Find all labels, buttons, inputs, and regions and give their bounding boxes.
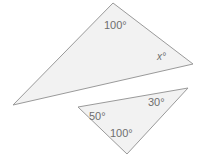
upper-triangle-shape xyxy=(13,3,193,105)
angle-label-100-upper: 100° xyxy=(104,20,127,31)
angle-label-100-lower: 100° xyxy=(110,128,133,139)
geometry-figure: 100° x° 50° 30° 100° xyxy=(0,0,200,157)
angle-label-50-lower: 50° xyxy=(89,111,106,122)
angle-label-30-lower: 30° xyxy=(148,97,165,108)
geometry-canvas xyxy=(0,0,200,157)
angle-label-x-upper: x° xyxy=(157,52,166,62)
